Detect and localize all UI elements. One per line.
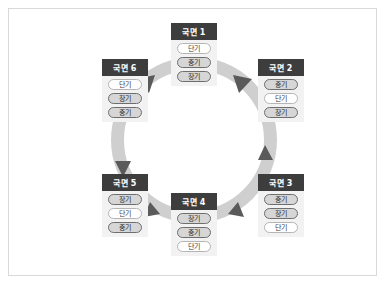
diagram-stage: 국면 1 단기 중기 장기 국면 2 중기 단기 장기 국면 3 중기 장기 단… (9, 9, 378, 277)
panel-phase-6[interactable]: 국면 6 단기 장기 중기 (102, 59, 148, 122)
panel-phase-6-item-3[interactable]: 중기 (108, 107, 142, 118)
panel-phase-3-item-3[interactable]: 단기 (264, 222, 298, 233)
panel-phase-2-item-3[interactable]: 장기 (264, 107, 298, 118)
panel-phase-1-item-3[interactable]: 장기 (177, 71, 211, 82)
panel-phase-2-item-2[interactable]: 단기 (264, 93, 298, 104)
panel-phase-5[interactable]: 국면 5 장기 단기 중기 (102, 174, 148, 237)
panel-phase-1-item-1[interactable]: 단기 (177, 43, 211, 54)
arrowhead-right-up (258, 145, 273, 160)
panel-phase-6-title: 국면 6 (102, 59, 148, 76)
panel-phase-6-item-2[interactable]: 장기 (108, 93, 142, 104)
panel-phase-5-item-3[interactable]: 중기 (108, 222, 142, 233)
panel-phase-6-item-1[interactable]: 단기 (108, 79, 142, 90)
panel-phase-3[interactable]: 국면 3 중기 장기 단기 (258, 174, 304, 237)
panel-phase-2-title: 국면 2 (258, 59, 304, 76)
panel-phase-3-title: 국면 3 (258, 174, 304, 191)
panel-phase-2-item-1[interactable]: 중기 (264, 79, 298, 90)
panel-phase-4[interactable]: 국면 4 장기 중기 단기 (171, 193, 217, 256)
panel-phase-3-item-2[interactable]: 장기 (264, 208, 298, 219)
panel-phase-4-item-1[interactable]: 장기 (177, 213, 211, 224)
diagram-frame: 국면 1 단기 중기 장기 국면 2 중기 단기 장기 국면 3 중기 장기 단… (8, 8, 377, 276)
panel-phase-5-item-1[interactable]: 장기 (108, 194, 142, 205)
panel-phase-1-item-2[interactable]: 중기 (177, 57, 211, 68)
panel-phase-5-item-2[interactable]: 단기 (108, 208, 142, 219)
panel-phase-4-title: 국면 4 (171, 193, 217, 210)
panel-phase-1[interactable]: 국면 1 단기 중기 장기 (171, 23, 217, 86)
panel-phase-3-item-1[interactable]: 중기 (264, 194, 298, 205)
arrowhead-lower-right (228, 202, 244, 217)
panel-phase-1-title: 국면 1 (171, 23, 217, 40)
panel-phase-2[interactable]: 국면 2 중기 단기 장기 (258, 59, 304, 122)
panel-phase-4-item-3[interactable]: 단기 (177, 241, 211, 252)
arrowhead-upper-right (233, 75, 252, 93)
panel-phase-5-title: 국면 5 (102, 174, 148, 191)
panel-phase-4-item-2[interactable]: 중기 (177, 227, 211, 238)
